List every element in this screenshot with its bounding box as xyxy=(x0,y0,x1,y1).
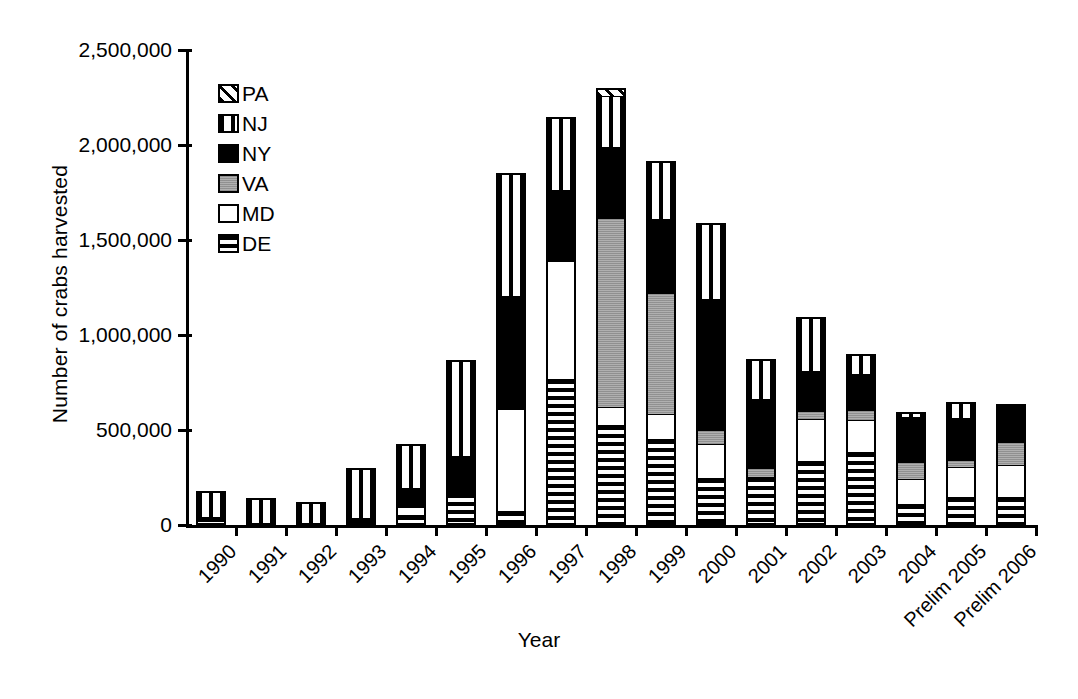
bar-segment-de xyxy=(498,512,524,523)
x-axis-tick xyxy=(235,525,238,536)
y-axis-tick-labels: 0500,0001,000,0001,500,0002,000,0002,500… xyxy=(0,0,172,560)
y-axis-tick-label: 1,000,000 xyxy=(79,323,172,347)
bar-1994 xyxy=(396,444,426,525)
bar-segment-md xyxy=(948,468,974,498)
x-axis-tick xyxy=(585,525,588,536)
bar-segment-de xyxy=(898,505,924,523)
x-axis-tick-label: 1993 xyxy=(344,540,392,588)
legend-label: PA xyxy=(242,83,268,104)
bar-segment-ny xyxy=(448,457,474,494)
x-axis-tick-label: 2003 xyxy=(844,540,892,588)
legend-label: VA xyxy=(242,173,268,194)
bar-segment-nj xyxy=(298,504,324,523)
legend-item-md: MD xyxy=(218,198,275,228)
legend-label: MD xyxy=(242,203,275,224)
bar-segment-ny xyxy=(648,220,674,293)
bar-segment-ny xyxy=(798,372,824,412)
y-axis-tick-label: 1,500,000 xyxy=(79,228,172,252)
bar-segment-ny xyxy=(548,191,574,262)
bar-segment-nj xyxy=(598,97,624,149)
bar-segment-md xyxy=(498,410,524,511)
x-axis-tick xyxy=(935,525,938,536)
bar-2004 xyxy=(896,412,926,525)
bar-segment-md xyxy=(898,480,924,505)
legend-swatch-de-icon xyxy=(218,234,239,253)
bar-segment-ny xyxy=(748,400,774,470)
x-axis-title: Year xyxy=(0,628,1078,652)
legend-item-va: VA xyxy=(218,168,275,198)
bar-segment-nj xyxy=(798,319,824,372)
legend-label: DE xyxy=(242,233,271,254)
y-axis-tick-label: 0 xyxy=(160,513,172,537)
bar-segment-va xyxy=(998,443,1024,466)
bar-segment-ny xyxy=(848,375,874,411)
bar-segment-ny xyxy=(498,297,524,411)
legend-item-pa: PA xyxy=(218,78,275,108)
x-axis-tick xyxy=(685,525,688,536)
x-axis-tick-label: 1996 xyxy=(494,540,542,588)
bar-segment-de xyxy=(998,498,1024,523)
bar-segment-ny xyxy=(598,148,624,219)
bar-segment-ny xyxy=(898,418,924,463)
bar-segment-de xyxy=(748,478,774,523)
bar-segment-ny xyxy=(948,419,974,460)
bar-segment-nj xyxy=(948,404,974,419)
bar-segment-va xyxy=(598,219,624,408)
bar-segment-nj xyxy=(698,225,724,300)
x-axis-tick xyxy=(435,525,438,536)
x-axis-tick xyxy=(285,525,288,536)
bar-1993 xyxy=(346,468,376,525)
bar-segment-de xyxy=(598,426,624,523)
bar-segment-de xyxy=(798,462,824,523)
bar-segment-nj xyxy=(198,493,224,518)
bar-segment-nj xyxy=(348,470,374,519)
legend-item-nj: NJ xyxy=(218,108,275,138)
bar-segment-md xyxy=(648,415,674,440)
bar-segment-de xyxy=(848,453,874,523)
x-axis-tick xyxy=(885,525,888,536)
bar-segment-de xyxy=(398,516,424,523)
x-axis-tick-label: 2000 xyxy=(694,540,742,588)
y-axis-tick xyxy=(178,239,192,242)
x-axis-tick-label: 1991 xyxy=(244,540,292,588)
y-axis-tick xyxy=(178,144,192,147)
bar-segment-md xyxy=(548,262,574,380)
bar-segment-de xyxy=(448,494,474,523)
x-axis-tick-label: 1992 xyxy=(294,540,342,588)
bar-1995 xyxy=(446,360,476,525)
bar-segment-md xyxy=(998,466,1024,498)
bar-segment-va xyxy=(698,431,724,445)
bar-1999 xyxy=(646,161,676,525)
legend-label: NY xyxy=(242,143,271,164)
x-axis-tick xyxy=(735,525,738,536)
y-axis-tick-label: 2,000,000 xyxy=(79,133,172,157)
bar-segment-md xyxy=(698,445,724,479)
legend-label: NJ xyxy=(242,113,268,134)
bar-segment-va xyxy=(948,461,974,468)
legend-swatch-va-icon xyxy=(218,174,239,193)
legend-swatch-ny-icon xyxy=(218,144,239,163)
bar-1992 xyxy=(296,502,326,525)
bar-segment-de xyxy=(348,519,374,523)
x-axis-tick xyxy=(335,525,338,536)
bar-2002 xyxy=(796,317,826,525)
bar-1990 xyxy=(196,491,226,525)
bar-prelim-2006 xyxy=(996,404,1026,525)
legend-item-ny: NY xyxy=(218,138,275,168)
bar-1996 xyxy=(496,173,526,525)
y-axis-tick-label: 2,500,000 xyxy=(79,38,172,62)
stacked-bar-chart: Number of crabs harvested 0500,0001,000,… xyxy=(0,0,1078,699)
bar-segment-de xyxy=(948,498,974,523)
x-axis-tick-label: 1990 xyxy=(194,540,242,588)
legend-swatch-pa-icon xyxy=(218,84,239,103)
y-axis-tick xyxy=(178,49,192,52)
bar-segment-md xyxy=(798,420,824,463)
bar-segment-ny xyxy=(398,489,424,508)
legend-item-de: DE xyxy=(218,228,275,258)
bar-segment-md xyxy=(398,508,424,516)
bar-1998 xyxy=(596,88,626,525)
y-axis-tick xyxy=(178,429,192,432)
x-axis-tick xyxy=(1035,525,1038,536)
x-axis-tick xyxy=(385,525,388,536)
x-axis-tick xyxy=(785,525,788,536)
